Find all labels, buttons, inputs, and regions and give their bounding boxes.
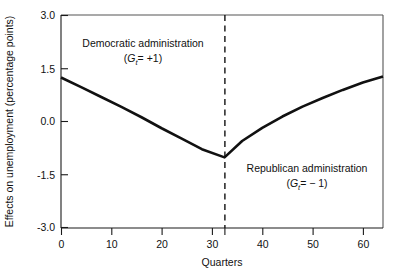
x-tick-label-0: 0 (59, 238, 65, 250)
y-tick-label-1p5: 1.5 (40, 63, 55, 75)
y-tick-label-neg3: -3.0 (37, 221, 55, 233)
x-tick-label-40: 40 (257, 238, 269, 250)
republican-annotation-label: Republican administration (247, 162, 368, 174)
democratic-symbol: G (127, 52, 135, 64)
x-tick-label-20: 20 (156, 238, 168, 250)
x-tick-label-30: 30 (207, 238, 219, 250)
x-axis-title: Quarters (202, 256, 243, 268)
y-tick-label-3: 3.0 (40, 9, 55, 21)
x-tick-label-10: 10 (106, 238, 118, 250)
unemployment-effects-line-chart: 3.0 1.5 0.0 -1.5 -3.0 0 10 20 30 40 50 6… (0, 0, 400, 277)
republican-symbol: G (290, 177, 298, 189)
y-tick-label-0: 0.0 (40, 115, 55, 127)
y-tick-label-neg1p5: -1.5 (37, 169, 55, 181)
chart-figure: 3.0 1.5 0.0 -1.5 -3.0 0 10 20 30 40 50 6… (0, 0, 400, 277)
democratic-annotation-label: Democratic administration (82, 37, 204, 49)
x-tick-label-50: 50 (307, 238, 319, 250)
democratic-value: +1 (147, 52, 159, 64)
y-axis-title: Effects on unemployment (percentage poin… (3, 16, 15, 228)
republican-value: − 1 (309, 177, 324, 189)
x-tick-label-60: 60 (358, 238, 370, 250)
